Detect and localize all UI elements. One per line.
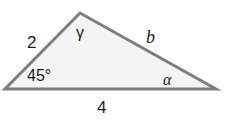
angle-alpha-label: α <box>163 72 171 88</box>
angle-45-label: 45° <box>27 68 51 84</box>
side-base-label: 4 <box>97 99 106 116</box>
angle-gamma-label: γ <box>76 25 84 41</box>
triangle-figure <box>0 0 226 120</box>
side-b-label: b <box>146 28 155 46</box>
side-left-label: 2 <box>27 34 36 51</box>
